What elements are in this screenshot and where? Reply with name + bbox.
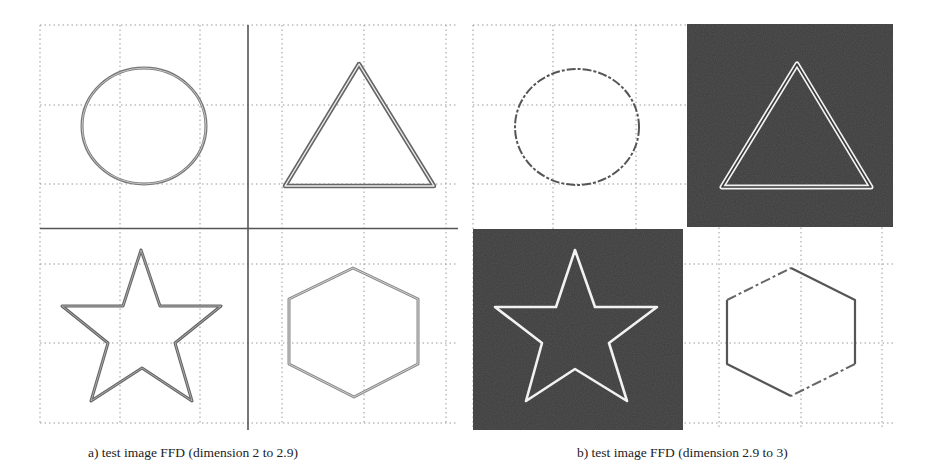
panel-a-circle xyxy=(82,68,206,184)
figure xyxy=(0,0,927,471)
panel-a-hexagon xyxy=(289,268,418,397)
panel-b-hexagon xyxy=(727,268,855,396)
panel-b xyxy=(473,24,893,430)
panel-a xyxy=(40,25,458,430)
caption-panel-a: a) test image FFD (dimension 2 to 2.9) xyxy=(88,445,298,461)
panel-b-circle xyxy=(515,69,639,185)
caption-panel-b: b) test image FFD (dimension 2.9 to 3) xyxy=(577,445,788,461)
panel-a-triangle xyxy=(285,64,434,186)
panel-a-star xyxy=(62,250,221,401)
panel-a-quadrant-lines xyxy=(40,25,458,430)
